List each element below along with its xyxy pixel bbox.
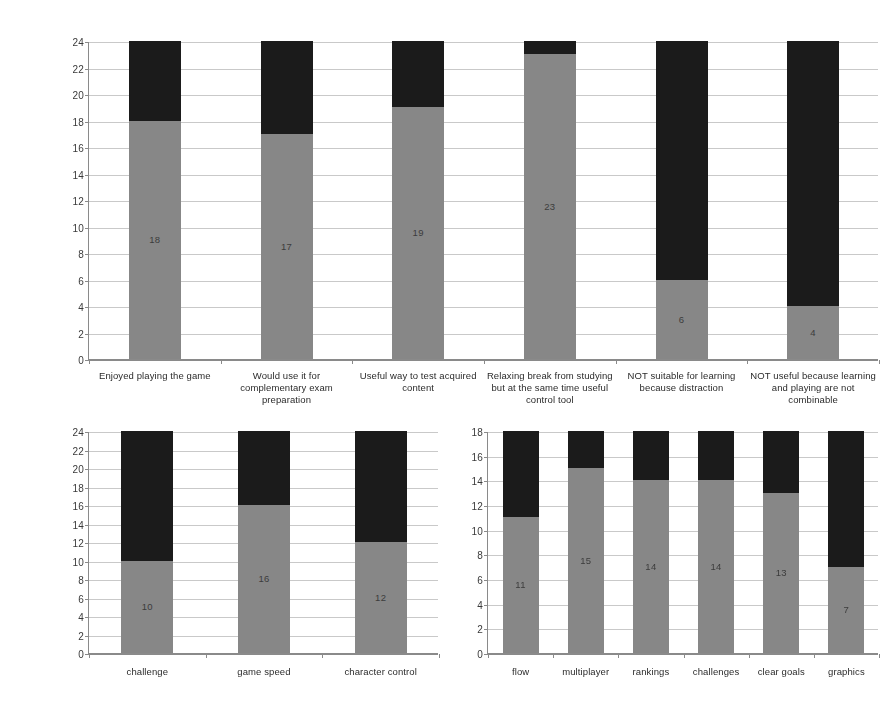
- gridline-8: [488, 555, 878, 556]
- bar-value-label: 12: [375, 593, 386, 603]
- y-axis-tick-mark: [85, 95, 89, 96]
- bar-multiplayer[interactable]: 15: [568, 431, 604, 653]
- bar-useful-way-to-test-acquired-content[interactable]: 19: [392, 41, 444, 359]
- bar-segment-agree: 19: [392, 107, 444, 359]
- x-axis-category-label: clear goals: [746, 666, 816, 678]
- x-axis-tick-mark: [616, 360, 617, 364]
- x-axis-tick-mark: [879, 360, 880, 364]
- y-axis-tick-mark: [484, 506, 488, 507]
- y-axis-tick-mark: [85, 307, 89, 308]
- stacked-bar-chart-bottom-left: 02468101214161820222410challenge16game s…: [88, 432, 438, 654]
- x-axis-category-label: Relaxing break from studying but at the …: [486, 370, 614, 406]
- y-axis-tick-mark: [85, 562, 89, 563]
- y-axis-tick-mark: [85, 451, 89, 452]
- y-axis-tick-mark: [484, 555, 488, 556]
- x-axis-tick-mark: [89, 654, 90, 658]
- x-axis-category-label: multiplayer: [551, 666, 621, 678]
- x-axis-tick-mark: [322, 654, 323, 658]
- gridline-2: [488, 629, 878, 630]
- y-axis-tick-mark: [85, 281, 89, 282]
- bar-rankings[interactable]: 14: [633, 431, 669, 653]
- gridline-16: [89, 148, 878, 149]
- x-axis-tick-mark: [814, 654, 815, 658]
- y-axis-tick-mark: [85, 69, 89, 70]
- gridline-14: [488, 481, 878, 482]
- x-axis-category-label: challenge: [88, 666, 206, 678]
- x-axis-category-label: challenges: [681, 666, 751, 678]
- bar-segment-disagree: [633, 431, 669, 480]
- y-axis-tick-mark: [484, 629, 488, 630]
- x-axis-tick-mark: [439, 654, 440, 658]
- x-axis-tick-mark: [488, 654, 489, 658]
- y-axis-tick-mark: [484, 457, 488, 458]
- x-axis-tick-mark: [484, 360, 485, 364]
- gridline-6: [488, 580, 878, 581]
- bar-value-label: 4: [810, 328, 816, 338]
- plot-area-top: 02468101214161820222418Enjoyed playing t…: [88, 42, 878, 360]
- y-axis-tick-mark: [85, 488, 89, 489]
- gridline-8: [89, 254, 878, 255]
- bar-game-speed[interactable]: 16: [238, 431, 290, 653]
- gridline-22: [89, 69, 878, 70]
- gridline-4: [89, 307, 878, 308]
- stacked-bar-chart-top: 02468101214161820222418Enjoyed playing t…: [88, 42, 878, 360]
- bar-segment-disagree: [261, 41, 313, 134]
- bar-segment-agree: 14: [698, 480, 734, 653]
- y-axis-tick-mark: [484, 531, 488, 532]
- bar-value-label: 16: [258, 574, 269, 584]
- x-axis-category-label: Would use it for complementary exam prep…: [223, 370, 351, 406]
- bar-segment-agree: 10: [121, 561, 173, 654]
- x-axis-tick-mark: [618, 654, 619, 658]
- x-axis-tick-mark: [553, 654, 554, 658]
- y-axis-tick-mark: [85, 543, 89, 544]
- bar-segment-disagree: [121, 431, 173, 561]
- bar-segment-disagree: [656, 41, 708, 280]
- bar-segment-agree: 14: [633, 480, 669, 653]
- bar-segment-disagree: [355, 431, 407, 542]
- x-axis-tick-mark: [747, 360, 748, 364]
- gridline-4: [488, 605, 878, 606]
- y-axis-tick-mark: [85, 175, 89, 176]
- bar-challenges[interactable]: 14: [698, 431, 734, 653]
- bar-segment-agree: 7: [828, 567, 864, 653]
- plot-area-bottom-right: 02468101214161811flow15multiplayer14rank…: [487, 432, 878, 654]
- y-axis-tick-mark: [484, 432, 488, 433]
- bar-segment-agree: 15: [568, 468, 604, 653]
- x-axis-tick-mark: [749, 654, 750, 658]
- y-axis-tick-mark: [85, 525, 89, 526]
- y-axis-tick-mark: [85, 42, 89, 43]
- bar-clear-goals[interactable]: 13: [763, 431, 799, 653]
- bar-segment-disagree: [524, 41, 576, 54]
- bar-not-useful-because-learning-and-playing-[interactable]: 4: [787, 41, 839, 359]
- bar-flow[interactable]: 11: [503, 431, 539, 653]
- bar-value-label: 18: [149, 235, 160, 245]
- bar-segment-disagree: [392, 41, 444, 107]
- y-axis-tick-mark: [85, 122, 89, 123]
- bar-would-use-it-for-complementary-exam-prep[interactable]: 17: [261, 41, 313, 359]
- y-axis-tick-mark: [85, 228, 89, 229]
- plot-area-bottom-left: 02468101214161820222410challenge16game s…: [88, 432, 438, 654]
- bar-relaxing-break-from-studying-but-at-the-[interactable]: 23: [524, 41, 576, 359]
- x-axis-tick-mark: [221, 360, 222, 364]
- bar-not-suitable-for-learning-because-distra[interactable]: 6: [656, 41, 708, 359]
- bar-segment-disagree: [503, 431, 539, 517]
- gridline-18: [488, 432, 878, 433]
- bar-graphics[interactable]: 7: [828, 431, 864, 653]
- x-axis-category-label: NOT suitable for learning because distra…: [618, 370, 746, 394]
- gridline-6: [89, 281, 878, 282]
- bar-value-label: 17: [281, 242, 292, 252]
- chart-page: 02468101214161820222418Enjoyed playing t…: [0, 0, 884, 709]
- y-axis-tick-mark: [484, 580, 488, 581]
- bar-segment-agree: 18: [129, 121, 181, 360]
- bar-challenge[interactable]: 10: [121, 431, 173, 653]
- bar-character-control[interactable]: 12: [355, 431, 407, 653]
- gridline-2: [89, 334, 878, 335]
- bar-segment-agree: 23: [524, 54, 576, 359]
- bar-enjoyed-playing-the-game[interactable]: 18: [129, 41, 181, 359]
- bar-segment-disagree: [568, 431, 604, 468]
- y-axis-tick-mark: [85, 432, 89, 433]
- x-axis-category-label: NOT useful because learning and playing …: [749, 370, 877, 406]
- bar-value-label: 23: [544, 202, 555, 212]
- bar-value-label: 14: [710, 562, 721, 572]
- bar-segment-disagree: [238, 431, 290, 505]
